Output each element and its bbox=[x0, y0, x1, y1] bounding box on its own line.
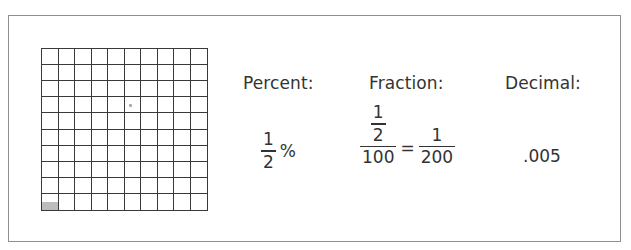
result-numerator: 1 bbox=[430, 127, 445, 146]
grid-cell bbox=[92, 178, 109, 194]
complex-fraction: 1 2 100 bbox=[360, 104, 396, 166]
grid-cell bbox=[141, 65, 158, 81]
half-numerator: 1 bbox=[371, 104, 386, 123]
grid-cell bbox=[108, 65, 125, 81]
grid-cell bbox=[75, 130, 92, 146]
grid-cell bbox=[108, 162, 125, 178]
grid-cell bbox=[141, 162, 158, 178]
grid-cell bbox=[158, 162, 175, 178]
grid-cell bbox=[191, 162, 208, 178]
grid-speck bbox=[129, 104, 132, 107]
fraction-header: Fraction: bbox=[369, 73, 444, 93]
grid-cell bbox=[75, 146, 92, 162]
grid-cell bbox=[125, 130, 142, 146]
grid-cell bbox=[158, 146, 175, 162]
grid-cell bbox=[125, 65, 142, 81]
grid-cell bbox=[191, 113, 208, 129]
hundred-grid bbox=[41, 48, 208, 211]
grid-cell bbox=[108, 194, 125, 210]
grid-cell bbox=[141, 49, 158, 65]
half-denominator: 2 bbox=[371, 125, 386, 144]
grid-cell bbox=[158, 178, 175, 194]
grid-cell bbox=[42, 81, 59, 97]
grid-cell bbox=[59, 113, 76, 129]
grid-cell bbox=[174, 162, 191, 178]
grid-cell bbox=[125, 49, 142, 65]
grid-cell bbox=[75, 194, 92, 210]
grid-cell bbox=[75, 65, 92, 81]
equals-sign: = bbox=[400, 138, 414, 158]
grid-cell bbox=[108, 146, 125, 162]
grid-cell bbox=[191, 81, 208, 97]
grid-cell bbox=[125, 113, 142, 129]
grid-cell bbox=[141, 146, 158, 162]
grid-cell bbox=[125, 178, 142, 194]
grid-cell bbox=[92, 97, 109, 113]
fraction-value: 1 2 100 = 1 200 bbox=[360, 104, 455, 166]
percent-header: Percent: bbox=[243, 73, 314, 93]
grid-cell bbox=[59, 194, 76, 210]
grid-cell bbox=[125, 194, 142, 210]
grid-cell bbox=[75, 81, 92, 97]
percent-value: 1 2 % bbox=[261, 131, 296, 171]
grid-cell bbox=[59, 81, 76, 97]
grid-cell bbox=[75, 162, 92, 178]
grid-cell bbox=[191, 65, 208, 81]
grid-cell bbox=[59, 146, 76, 162]
grid-cell bbox=[141, 194, 158, 210]
grid-cell bbox=[92, 65, 109, 81]
grid-cell bbox=[108, 97, 125, 113]
grid-cell bbox=[92, 113, 109, 129]
complex-numerator: 1 2 bbox=[369, 104, 388, 146]
grid-cell bbox=[125, 146, 142, 162]
grid-cell bbox=[141, 81, 158, 97]
grid-cell bbox=[174, 178, 191, 194]
grid-cell bbox=[174, 146, 191, 162]
grid-cell bbox=[108, 130, 125, 146]
grid-cell bbox=[174, 49, 191, 65]
grid-cell bbox=[141, 178, 158, 194]
result-fraction: 1 200 bbox=[419, 127, 455, 167]
grid-cell bbox=[42, 113, 59, 129]
percent-fraction: 1 2 bbox=[261, 131, 276, 171]
half-fraction: 1 2 bbox=[371, 104, 386, 144]
grid-cell bbox=[75, 178, 92, 194]
grid-cell bbox=[174, 97, 191, 113]
grid-cell bbox=[108, 178, 125, 194]
grid-cell bbox=[174, 194, 191, 210]
grid-cell bbox=[141, 97, 158, 113]
grid-cell bbox=[42, 49, 59, 65]
grid-cell bbox=[42, 194, 59, 210]
grid-cell bbox=[42, 65, 59, 81]
grid-cell bbox=[191, 146, 208, 162]
percent-numerator: 1 bbox=[261, 131, 276, 150]
grid-cell bbox=[59, 178, 76, 194]
grid-cell bbox=[92, 81, 109, 97]
grid-cell bbox=[92, 49, 109, 65]
grid-cell bbox=[108, 49, 125, 65]
grid-cell bbox=[158, 49, 175, 65]
grid-cell bbox=[174, 81, 191, 97]
grid-cell bbox=[59, 97, 76, 113]
grid-cell bbox=[174, 130, 191, 146]
grid-cell bbox=[92, 130, 109, 146]
grid-cell bbox=[191, 97, 208, 113]
grid-cell bbox=[125, 97, 142, 113]
grid-cell bbox=[59, 49, 76, 65]
grid-cell bbox=[108, 81, 125, 97]
grid-cell bbox=[191, 194, 208, 210]
complex-denominator: 100 bbox=[360, 147, 396, 166]
grid-cell bbox=[59, 162, 76, 178]
grid-cell bbox=[191, 178, 208, 194]
grid-cell bbox=[42, 162, 59, 178]
grid-cell bbox=[141, 130, 158, 146]
grid-cell bbox=[108, 113, 125, 129]
grid-cell bbox=[158, 81, 175, 97]
decimal-header: Decimal: bbox=[505, 73, 581, 93]
grid-cell bbox=[42, 97, 59, 113]
grid-cell bbox=[158, 194, 175, 210]
grid-cell bbox=[158, 113, 175, 129]
grid-cell bbox=[125, 81, 142, 97]
percent-denominator: 2 bbox=[261, 152, 276, 171]
grid-cell bbox=[42, 178, 59, 194]
